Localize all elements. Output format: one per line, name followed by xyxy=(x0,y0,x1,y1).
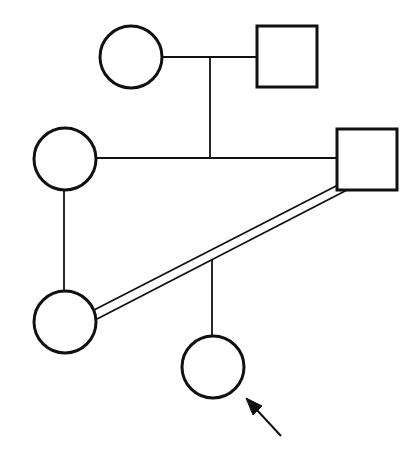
individual-II-1-female[interactable] xyxy=(34,128,96,190)
individual-I-2-male[interactable] xyxy=(257,26,317,87)
individual-I-1-female[interactable] xyxy=(100,26,162,88)
individual-II-2-male[interactable] xyxy=(337,129,397,190)
individual-III-1-female[interactable] xyxy=(34,291,96,353)
consanguinity-line-upper xyxy=(94,185,338,310)
pedigree-diagram xyxy=(0,0,406,455)
pedigree-svg xyxy=(0,0,406,455)
proband-arrow-icon xyxy=(246,398,281,436)
individual-IV-1-proband-female[interactable] xyxy=(182,336,244,398)
consanguinity-line-lower xyxy=(97,190,347,319)
